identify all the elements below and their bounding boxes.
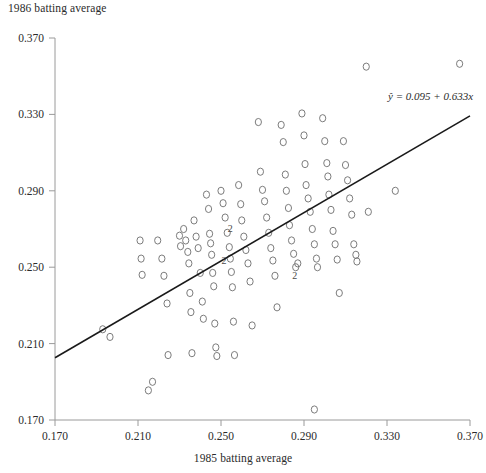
- data-point-marker: [349, 211, 355, 218]
- data-point-marker: [457, 60, 463, 67]
- data-point-marker: [313, 255, 319, 262]
- data-point-marker: [302, 160, 308, 167]
- data-point-marker: [107, 333, 113, 340]
- y-axis-tick-label: 0.250: [18, 261, 44, 273]
- data-point-marker: [291, 250, 297, 257]
- data-point-marker: [299, 110, 305, 117]
- data-point-marker: [347, 195, 353, 202]
- y-axis-title: 1986 batting average: [8, 2, 106, 14]
- data-point-marker: [353, 251, 359, 258]
- data-point-marker: [324, 160, 330, 167]
- data-point-marker: [255, 118, 261, 125]
- data-point-marker: [205, 205, 211, 212]
- data-point-marker: [363, 63, 369, 70]
- data-point-marker: [161, 272, 167, 279]
- data-point-marker: [191, 217, 197, 224]
- data-point-marker: [164, 300, 170, 307]
- data-point-marker: [336, 289, 342, 296]
- data-point-marker: [177, 243, 183, 250]
- data-point-marker: [303, 181, 309, 188]
- data-point-marker: [320, 115, 326, 122]
- data-point-marker: [344, 177, 350, 184]
- data-point-marker: [259, 186, 265, 193]
- duplicate-point-count-label: 2: [228, 223, 233, 234]
- data-point-marker: [145, 387, 151, 394]
- data-point-marker: [212, 320, 218, 327]
- data-point-marker: [139, 271, 145, 278]
- data-point-marker: [283, 187, 289, 194]
- data-point-marker: [209, 251, 215, 258]
- data-point-marker: [270, 257, 276, 264]
- data-point-marker: [332, 241, 338, 248]
- data-points-layer: 222: [100, 60, 463, 413]
- scatter-plot-figure: 1986 batting average 1985 batting averag…: [0, 0, 486, 473]
- data-point-marker: [301, 132, 307, 139]
- data-point-marker: [239, 217, 245, 224]
- data-point-marker: [322, 138, 328, 145]
- data-point-marker: [280, 138, 286, 145]
- data-point-marker: [249, 322, 255, 329]
- data-point-marker: [261, 198, 267, 205]
- data-point-marker: [230, 318, 236, 325]
- y-axis-tick-label: 0.170: [18, 414, 44, 426]
- data-point-marker: [340, 138, 346, 145]
- data-point-marker: [229, 284, 235, 291]
- data-point-marker: [159, 255, 165, 262]
- data-point-marker: [351, 241, 357, 248]
- data-point-marker: [228, 268, 234, 275]
- data-point-marker: [213, 344, 219, 351]
- data-point-marker: [311, 241, 317, 248]
- data-point-marker: [328, 206, 334, 213]
- data-point-marker: [176, 232, 182, 239]
- data-point-marker: [181, 225, 187, 232]
- data-point-marker: [165, 351, 171, 358]
- data-point-marker: [392, 187, 398, 194]
- x-axis-tick-label: 0.290: [291, 430, 317, 442]
- data-point-marker: [268, 245, 274, 252]
- data-point-marker: [226, 244, 232, 251]
- y-axis-tick-label: 0.370: [18, 32, 44, 44]
- y-axis-tick-label: 0.330: [18, 108, 44, 120]
- data-point-marker: [137, 237, 143, 244]
- data-point-marker: [241, 233, 247, 240]
- data-point-marker: [149, 378, 155, 385]
- x-axis-tick-label: 0.370: [457, 430, 483, 442]
- data-point-marker: [365, 208, 371, 215]
- data-point-marker: [278, 121, 284, 128]
- duplicate-point-count-label: 2: [292, 270, 297, 281]
- regression-line-layer: [55, 116, 470, 358]
- data-point-marker: [311, 406, 317, 413]
- data-point-marker: [211, 283, 217, 290]
- data-point-marker: [183, 237, 189, 244]
- data-point-marker: [282, 171, 288, 178]
- data-point-marker: [334, 256, 340, 263]
- data-point-marker: [274, 304, 280, 311]
- data-point-marker: [200, 315, 206, 322]
- data-point-marker: [314, 264, 320, 271]
- data-point-marker: [257, 168, 263, 175]
- data-point-marker: [155, 237, 161, 244]
- y-axis-tick-label: 0.210: [18, 338, 44, 350]
- data-point-marker: [186, 260, 192, 267]
- regression-line: [55, 116, 470, 358]
- x-axis-title: 1985 batting average: [0, 452, 486, 464]
- data-point-marker: [195, 245, 201, 252]
- data-point-marker: [185, 248, 191, 255]
- data-point-marker: [187, 289, 193, 296]
- data-point-marker: [214, 352, 220, 359]
- data-point-marker: [309, 225, 315, 232]
- data-point-marker: [189, 350, 195, 357]
- x-axis-tick-label: 0.330: [374, 430, 400, 442]
- data-point-marker: [330, 227, 336, 234]
- data-point-marker: [245, 260, 251, 267]
- x-axis-tick-label: 0.250: [208, 430, 234, 442]
- data-point-marker: [231, 351, 237, 358]
- data-point-marker: [138, 255, 144, 262]
- data-point-marker: [305, 195, 311, 202]
- data-point-marker: [354, 258, 360, 265]
- data-point-marker: [288, 237, 294, 244]
- data-point-marker: [218, 187, 224, 194]
- x-axis-tick-label: 0.170: [42, 430, 68, 442]
- data-point-marker: [220, 200, 226, 207]
- y-axis: 0.3700.3300.2900.2500.2100.170: [18, 32, 55, 426]
